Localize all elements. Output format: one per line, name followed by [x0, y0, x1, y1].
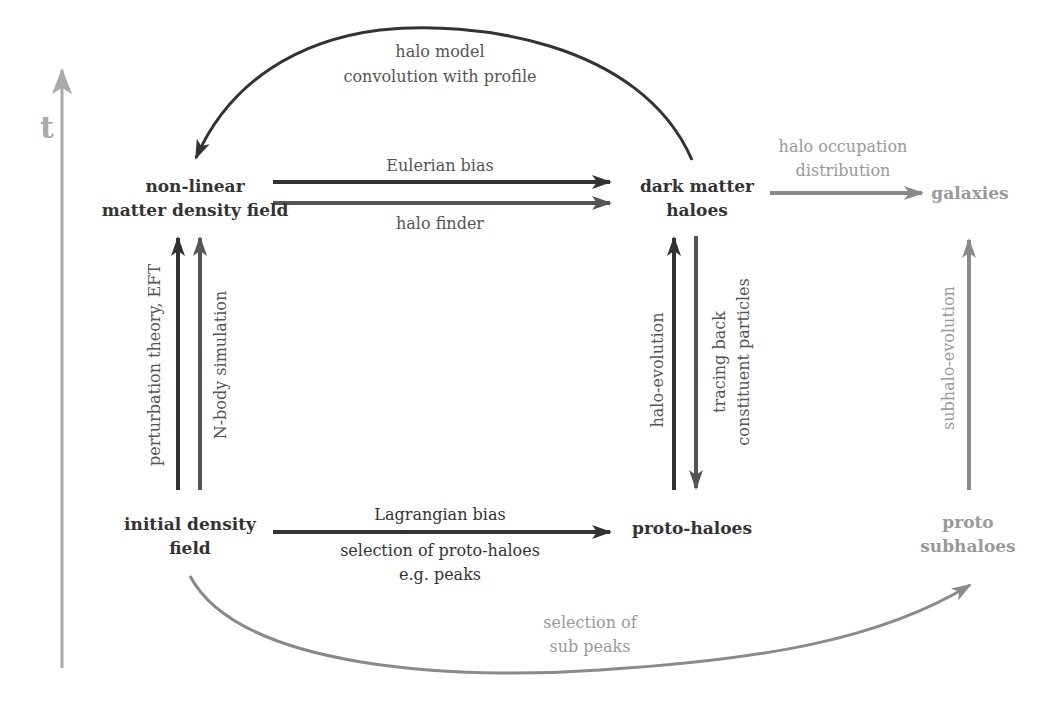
edge-perturbation-theory: perturbation theory, EFT — [145, 238, 178, 490]
edge-halo-evolution: halo-evolution — [648, 238, 674, 490]
galaxies-label: galaxies — [931, 183, 1008, 203]
nonlinear-line2: matter density field — [102, 200, 289, 220]
node-initial-density-field: initial density field — [124, 514, 257, 558]
time-axis: t — [40, 70, 62, 668]
perturbation-theory-label: perturbation theory, EFT — [145, 264, 164, 466]
initial-line1: initial density — [124, 514, 257, 534]
node-galaxies: galaxies — [931, 183, 1008, 203]
edge-eulerian-bias: Eulerian bias — [273, 156, 610, 182]
diagram-canvas: t halo model convolution with profile Eu… — [0, 0, 1046, 701]
lagrangian-bias-label: Lagrangian bias — [374, 505, 505, 524]
dm-haloes-line2: haloes — [666, 200, 728, 220]
edge-tracing-back: tracing back constituent particles — [696, 236, 753, 488]
sub-peaks-label: selection of — [543, 613, 637, 632]
edge-lagrangian-bias: Lagrangian bias selection of proto-haloe… — [273, 505, 610, 584]
edge-nbody: N-body simulation — [200, 238, 230, 490]
proto-haloes-label: proto-haloes — [632, 518, 752, 538]
eulerian-bias-label: Eulerian bias — [386, 156, 493, 175]
lagrangian-bias-sublabel: selection of proto-haloes — [340, 541, 540, 560]
nonlinear-line1: non-linear — [145, 176, 245, 196]
node-proto-subhaloes: proto subhaloes — [920, 512, 1015, 556]
node-nonlinear-field: non-linear matter density field — [102, 176, 289, 220]
tracing-back-sublabel: constituent particles — [734, 278, 753, 445]
proto-subhaloes-line1: proto — [942, 512, 993, 532]
edge-hod: halo occupation distribution — [770, 137, 922, 193]
edge-halo-model: halo model convolution with profile — [196, 28, 692, 160]
halo-evolution-label: halo-evolution — [648, 312, 667, 427]
edge-sub-peaks: selection of sub peaks — [190, 576, 970, 673]
hod-sublabel: distribution — [796, 161, 891, 180]
time-axis-label: t — [40, 110, 54, 145]
halo-model-label: halo model — [395, 42, 484, 61]
dm-haloes-line1: dark matter — [640, 176, 755, 196]
edge-halo-finder: halo finder — [273, 203, 610, 233]
nbody-label: N-body simulation — [211, 291, 230, 440]
tracing-back-label: tracing back — [710, 311, 729, 413]
node-proto-haloes: proto-haloes — [632, 518, 752, 538]
edge-subhalo-evolution: subhalo-evolution — [939, 240, 969, 490]
subhalo-evolution-label: subhalo-evolution — [939, 286, 958, 430]
hod-label: halo occupation — [779, 137, 908, 156]
halo-model-sublabel: convolution with profile — [344, 67, 537, 86]
node-dark-matter-haloes: dark matter haloes — [640, 176, 755, 220]
sub-peaks-sublabel: sub peaks — [550, 637, 631, 656]
halo-finder-label: halo finder — [396, 214, 484, 233]
lagrangian-bias-sublabel2: e.g. peaks — [399, 565, 481, 584]
initial-line2: field — [169, 538, 211, 558]
proto-subhaloes-line2: subhaloes — [920, 536, 1015, 556]
